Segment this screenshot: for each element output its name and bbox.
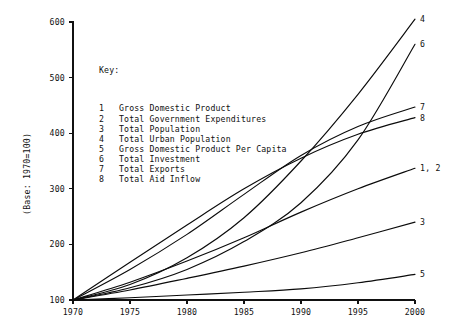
- series-line-3: [73, 222, 415, 300]
- legend-entry: 6Total Investment: [99, 154, 287, 164]
- x-tick-label: 1980: [177, 307, 198, 317]
- legend-entry-key: 2: [99, 114, 119, 124]
- y-axis-title: (Base: 1970=100): [22, 133, 32, 215]
- x-tick-label: 1970: [63, 307, 84, 317]
- y-tick-label: 300: [50, 184, 65, 194]
- series-end-label: 4: [420, 14, 425, 24]
- legend-entry-label: Gross Domestic Product: [119, 103, 231, 113]
- series-end-labels: 46781, 235: [420, 14, 441, 279]
- y-tick-label: 200: [50, 239, 65, 249]
- legend-entry: 4Total Urban Population: [99, 134, 287, 144]
- x-tick-label: 1995: [348, 307, 369, 317]
- legend-entry-label: Total Urban Population: [119, 134, 231, 144]
- y-tick-label: 600: [50, 17, 65, 27]
- chart-legend: Key: 1Gross Domestic Product2Total Gover…: [99, 45, 287, 204]
- series-end-label: 5: [420, 269, 425, 279]
- legend-entry-key: 5: [99, 144, 119, 154]
- legend-entry-key: 8: [99, 174, 119, 184]
- legend-entry-key: 4: [99, 134, 119, 144]
- legend-entry: 1Gross Domestic Product: [99, 103, 287, 113]
- legend-entry: 3Total Population: [99, 124, 287, 134]
- x-tick-label: 1985: [234, 307, 255, 317]
- legend-entry-key: 1: [99, 103, 119, 113]
- series-line-5: [73, 274, 415, 300]
- legend-entry: 7Total Exports: [99, 164, 287, 174]
- legend-entry: 5Gross Domestic Product Per Capita: [99, 144, 287, 154]
- x-tick-label: 2000: [405, 307, 426, 317]
- legend-entry-key: 6: [99, 154, 119, 164]
- legend-entry-label: Gross Domestic Product Per Capita: [119, 144, 287, 154]
- series-end-label: 3: [420, 217, 425, 227]
- legend-entry-key: 3: [99, 124, 119, 134]
- legend-entry-key: 7: [99, 164, 119, 174]
- series-end-label: 1, 2: [420, 163, 441, 173]
- line-chart: 100200300400500600 197019751980198519901…: [0, 0, 462, 336]
- series-end-label: 6: [420, 39, 425, 49]
- legend-entry: 2Total Government Expenditures: [99, 114, 287, 124]
- series-end-label: 7: [420, 102, 425, 112]
- legend-title: Key:: [99, 65, 287, 75]
- legend-entry: 8Total Aid Inflow: [99, 174, 287, 184]
- legend-entry-label: Total Population: [119, 124, 200, 134]
- y-axis-ticks: 100200300400500600: [50, 17, 73, 305]
- y-tick-label: 500: [50, 73, 65, 83]
- series-end-label: 8: [420, 113, 425, 123]
- legend-entry-label: Total Aid Inflow: [119, 174, 200, 184]
- legend-entry-label: Total Government Expenditures: [119, 114, 266, 124]
- x-tick-label: 1990: [291, 307, 312, 317]
- x-axis-ticks: 1970197519801985199019952000: [63, 300, 426, 317]
- y-tick-label: 400: [50, 128, 65, 138]
- x-tick-label: 1975: [120, 307, 141, 317]
- legend-entry-label: Total Investment: [119, 154, 200, 164]
- y-tick-label: 100: [50, 295, 65, 305]
- legend-entry-label: Total Exports: [119, 164, 185, 174]
- legend-entries: 1Gross Domestic Product2Total Government…: [99, 103, 287, 184]
